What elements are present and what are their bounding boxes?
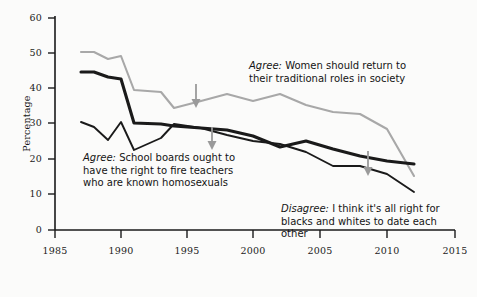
ytick-label-10: 10	[20, 188, 42, 199]
xtick-label-2000: 2000	[233, 245, 273, 256]
annotation-interracial-dating: Disagree: I think it's all right for bla…	[281, 203, 449, 241]
xtick-label-2010: 2010	[367, 245, 407, 256]
ytick-label-60: 60	[20, 12, 42, 23]
annotation-date-lead: Disagree:	[281, 203, 329, 214]
annotation-women-lead: Agree:	[249, 60, 282, 71]
ytick-label-50: 50	[20, 47, 42, 58]
line-chart: 60 50 40 30 20 10 0 1985 1990 1995 2000 …	[0, 0, 477, 297]
annotation-school-boards: Agree: School boards ought to have the r…	[83, 152, 243, 190]
ytick-label-0: 0	[20, 224, 42, 235]
xtick-label-1995: 1995	[167, 245, 207, 256]
xtick-label-1985: 1985	[35, 245, 75, 256]
xtick-label-1990: 1990	[101, 245, 141, 256]
y-axis-title: Percentage	[21, 84, 32, 164]
arrow-to-women-series	[192, 84, 201, 108]
arrow-to-date-series	[364, 151, 373, 176]
annotation-school-lead: Agree:	[83, 152, 116, 163]
xtick-label-2015: 2015	[435, 245, 475, 256]
xtick-label-2005: 2005	[300, 245, 340, 256]
series-line-school-boards-fire-teachers	[81, 72, 414, 164]
annotation-women-traditional-roles: Agree: Women should return to their trad…	[249, 60, 414, 85]
